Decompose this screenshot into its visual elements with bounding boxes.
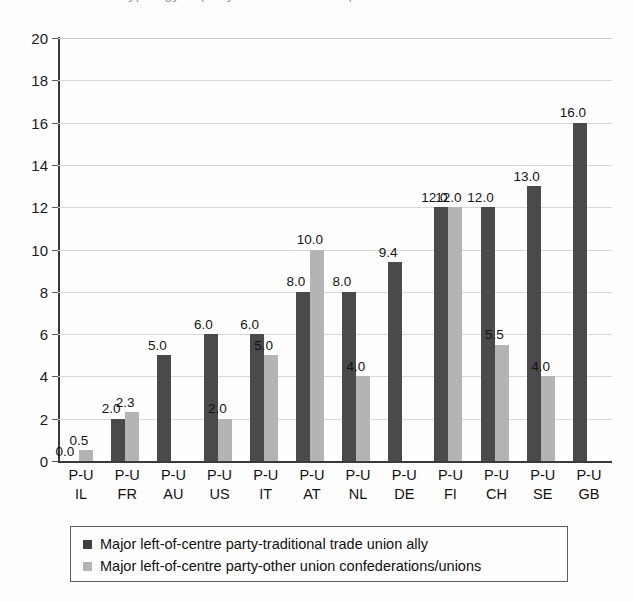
category-line-1: P-U xyxy=(299,467,324,483)
bar-value-label: 0.5 xyxy=(62,434,96,448)
category-line-2: FR xyxy=(104,485,150,504)
legend-swatch-icon xyxy=(83,540,92,549)
bar-value-label: 5.5 xyxy=(478,328,512,342)
y-axis-tick-label: 10 xyxy=(0,243,48,258)
category-line-1: P-U xyxy=(161,467,186,483)
bar xyxy=(250,334,264,461)
bar-group: 6.02.0 xyxy=(197,38,243,461)
x-axis-category-label: P-UAT xyxy=(289,466,335,504)
y-axis-tick-label: 6 xyxy=(0,327,48,342)
bar xyxy=(342,292,356,461)
category-line-2: US xyxy=(197,485,243,504)
x-axis-category-label: P-UIL xyxy=(58,466,104,504)
x-axis-category-label: P-UGB xyxy=(566,466,612,504)
category-line-1: P-U xyxy=(530,467,555,483)
chart-legend: Major left-of-centre party-traditional t… xyxy=(70,526,568,582)
category-line-1: P-U xyxy=(438,467,463,483)
x-axis-category-label: P-USE xyxy=(520,466,566,504)
category-line-1: P-U xyxy=(346,467,371,483)
bar xyxy=(434,207,448,461)
bar-value-label: 12.0 xyxy=(431,191,465,205)
y-axis-tick-label: 12 xyxy=(0,200,48,215)
plot-area: 0.00.52.02.35.06.02.06.05.08.010.08.04.0… xyxy=(58,38,612,461)
legend-swatch-icon xyxy=(83,562,92,571)
y-axis-tick-label: 0 xyxy=(0,454,48,469)
y-axis-tick-label: 8 xyxy=(0,285,48,300)
bar-value-label: 5.0 xyxy=(247,339,281,353)
bar-value-label: 8.0 xyxy=(279,275,313,289)
cut-off-title-text: Typology of party-union relationships xyxy=(120,0,364,2)
bar xyxy=(125,412,139,461)
legend-item: Major left-of-centre party-traditional t… xyxy=(83,533,428,555)
category-line-2: AT xyxy=(289,485,335,504)
y-axis-tick-label: 18 xyxy=(0,73,48,88)
bar-value-label: 12.0 xyxy=(464,191,498,205)
legend-label: Major left-of-centre party-traditional t… xyxy=(100,536,428,552)
category-line-1: P-U xyxy=(207,467,232,483)
x-axis-category-label: P-UDE xyxy=(381,466,427,504)
bar-value-label: 9.4 xyxy=(371,246,405,260)
bar-value-label: 6.0 xyxy=(187,318,221,332)
category-line-2: SE xyxy=(520,485,566,504)
legend-item: Major left-of-centre party-other union c… xyxy=(83,555,481,577)
bar xyxy=(527,186,541,461)
bar xyxy=(264,355,278,461)
bar-value-label: 2.3 xyxy=(108,396,142,410)
bar xyxy=(388,262,402,461)
x-axis-category-label: P-UFR xyxy=(104,466,150,504)
x-axis-line xyxy=(58,461,612,463)
bar xyxy=(541,376,555,461)
category-line-2: FI xyxy=(427,485,473,504)
y-axis-tick-label: 14 xyxy=(0,158,48,173)
bar-value-label: 16.0 xyxy=(556,106,590,120)
category-line-2: IL xyxy=(58,485,104,504)
y-axis-tick-mark xyxy=(52,461,58,462)
bar-value-label: 4.0 xyxy=(524,360,558,374)
bar xyxy=(310,250,324,462)
bar-group: 13.04.0 xyxy=(520,38,566,461)
bar-group: 16.0 xyxy=(566,38,612,461)
y-axis-tick-label: 16 xyxy=(0,116,48,131)
bar-group: 8.010.0 xyxy=(289,38,335,461)
category-line-2: AU xyxy=(150,485,196,504)
bar-chart: 02468101214161820 0.00.52.02.35.06.02.06… xyxy=(0,14,634,514)
category-line-2: CH xyxy=(474,485,520,504)
bar xyxy=(495,345,509,461)
x-axis-category-label: P-UCH xyxy=(474,466,520,504)
bar-group: 12.012.0 xyxy=(427,38,473,461)
bar-value-label: 8.0 xyxy=(325,275,359,289)
category-line-1: P-U xyxy=(576,467,601,483)
x-axis-category-label: P-UIT xyxy=(243,466,289,504)
bar xyxy=(448,207,462,461)
bar-value-label: 4.0 xyxy=(339,360,373,374)
bar-value-label: 6.0 xyxy=(233,318,267,332)
y-axis-tick-label: 2 xyxy=(0,412,48,427)
bar-value-label: 5.0 xyxy=(140,339,174,353)
category-line-2: IT xyxy=(243,485,289,504)
bar-value-label: 13.0 xyxy=(510,170,544,184)
bar xyxy=(573,123,587,461)
y-axis-tick-label: 4 xyxy=(0,369,48,384)
x-axis-category-label: P-UAU xyxy=(150,466,196,504)
legend-label: Major left-of-centre party-other union c… xyxy=(100,558,481,574)
x-axis-category-label: P-UFI xyxy=(427,466,473,504)
x-axis-category-label: P-UNL xyxy=(335,466,381,504)
bar-group: 2.02.3 xyxy=(104,38,150,461)
category-line-2: GB xyxy=(566,485,612,504)
bar-value-label: 10.0 xyxy=(293,233,327,247)
cut-off-title: Typology of party-union relationships xyxy=(0,0,634,14)
bar xyxy=(157,355,171,461)
category-line-1: P-U xyxy=(253,467,278,483)
category-line-1: P-U xyxy=(115,467,140,483)
y-axis-tick-label: 20 xyxy=(0,31,48,46)
bar-value-label: 2.0 xyxy=(201,402,235,416)
x-axis-category-label: P-UUS xyxy=(197,466,243,504)
bar xyxy=(79,450,93,461)
category-line-1: P-U xyxy=(69,467,94,483)
bar xyxy=(204,334,218,461)
bar xyxy=(356,376,370,461)
category-line-1: P-U xyxy=(484,467,509,483)
bar xyxy=(111,419,125,461)
category-line-2: DE xyxy=(381,485,427,504)
bar-group: 0.00.5 xyxy=(58,38,104,461)
